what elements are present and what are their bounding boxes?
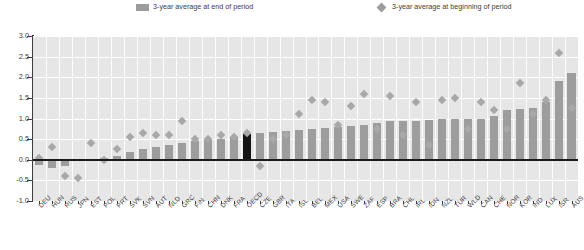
bar-nzl [438,119,446,160]
gridline-vertical [344,36,345,201]
gridline-vertical [552,36,553,201]
legend-item-beginning-of-period: 3-year average at beginning of period [375,3,511,11]
y-axis-tick-label: 1.5 [1,94,29,102]
y-axis-tick-label: 0.0 [1,156,29,164]
gridline-vertical [422,36,423,201]
gridline-vertical [513,36,514,201]
marker-isl [295,110,303,118]
y-axis-tick [27,180,32,181]
gridline-vertical [59,36,60,201]
y-axis-tick-label: 2.5 [1,53,29,61]
bar-fin [191,141,199,160]
gridline-vertical [526,36,527,201]
gridline-vertical [539,36,540,201]
gridline-vertical [331,36,332,201]
marker-svn [139,129,147,137]
marker-irl [412,98,420,106]
bar-hun [48,160,56,168]
gridline-vertical [383,36,384,201]
marker-swe [347,102,355,110]
gridline-vertical [72,36,73,201]
bar-chn [204,140,212,159]
y-axis-tick-label: -0.5 [1,176,29,184]
marker-kor [515,79,523,87]
marker-nld [165,131,173,139]
gridline-vertical [500,36,501,201]
y-axis-tick-label: 3.0 [1,32,29,40]
y-axis-tick [27,160,32,161]
y-axis-tick [27,98,32,99]
gridline-vertical [448,36,449,201]
y-axis-tick [27,201,32,202]
gridline-vertical [163,36,164,201]
y-axis-tick-label: 2.0 [1,73,29,81]
gridline-vertical [202,36,203,201]
marker-can [476,98,484,106]
gridline-vertical [565,36,566,201]
gridline-vertical [487,36,488,201]
gridline-vertical [370,36,371,201]
y-axis-tick [27,139,32,140]
bar-nor [503,110,511,160]
bar-che [490,116,498,159]
bar-can [477,119,485,160]
bar-chl [399,121,407,160]
bar-irl [412,121,420,160]
gridline-vertical [189,36,190,201]
marker-cze [256,162,264,170]
gridline-vertical [124,36,125,201]
y-axis-tick [27,77,32,78]
gridline-vertical [137,36,138,201]
gridline-vertical [85,36,86,201]
marker-tur [450,94,458,102]
y-axis-tick-label: -1.0 [1,197,29,205]
gridline-vertical [176,36,177,201]
marker-mex [321,98,329,106]
gridline-vertical [228,36,229,201]
gridline-vertical [357,36,358,201]
gridline-vertical [267,36,268,201]
bar-cze [256,133,264,160]
gridline-vertical [435,36,436,201]
gridline-vertical [111,36,112,201]
gridline-vertical [461,36,462,201]
bar-kor [516,109,524,159]
gridline-vertical [474,36,475,201]
legend-item-end-of-period: 3-year average at end of period [136,3,253,11]
legend-label-beginning-of-period: 3-year average at beginning of period [392,3,511,11]
bar-bel [308,129,316,160]
marker-est [87,139,95,147]
y-axis-tick-label: 1.0 [1,115,29,123]
marker-zaf [360,90,368,98]
bar-grc [178,143,186,160]
bar-aut [152,147,160,159]
gridline-vertical [46,36,47,201]
bar-aus [567,73,575,160]
gridline-vertical [396,36,397,201]
gridline-vertical [215,36,216,201]
bar-lux [542,102,550,160]
bar-isl [295,130,303,160]
y-axis-labels: 3.02.52.01.51.00.50.0-0.5-1.0 [0,0,29,250]
zero-axis-line [33,159,578,161]
bar-zaf [360,125,368,160]
marker-che [489,106,497,114]
bar-nld [165,145,173,160]
bar-swe [347,126,355,160]
marker-isr [554,48,562,56]
gridline-vertical [293,36,294,201]
legend-bar-swatch-icon [136,4,149,11]
gridline-vertical [150,36,151,201]
gridline-vertical [241,36,242,201]
y-axis-tick-label: 0.5 [1,135,29,143]
legend-label-end-of-period: 3-year average at end of period [153,3,253,11]
bar-tur [451,119,459,160]
gridline-vertical [98,36,99,201]
plot-area [33,36,578,201]
marker-rus [61,172,69,180]
y-axis-tick [27,119,32,120]
gridline-vertical [409,36,410,201]
chart-legend: 3-year average at end of period 3-year a… [0,0,578,20]
bar-dnk [217,139,225,160]
